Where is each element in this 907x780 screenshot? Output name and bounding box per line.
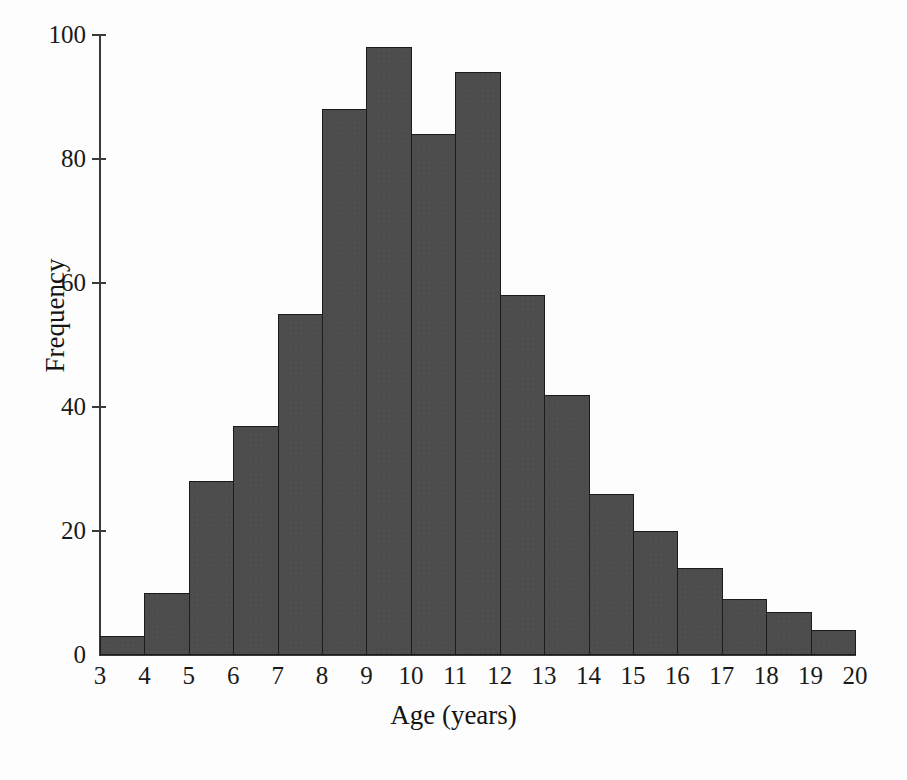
histogram-bar — [278, 314, 323, 655]
x-axis-tick-label: 17 — [700, 662, 744, 690]
x-axis-tick-label: 18 — [744, 662, 788, 690]
x-axis-tick-label: 15 — [611, 662, 655, 690]
histogram-bar — [366, 47, 411, 655]
x-axis-tick-label: 8 — [300, 662, 344, 690]
bar-texture — [456, 73, 499, 654]
histogram-bar — [677, 568, 722, 655]
y-axis-tick — [92, 406, 106, 408]
bar-texture — [678, 569, 721, 654]
x-axis-tick-label: 7 — [256, 662, 300, 690]
histogram-bar — [544, 395, 589, 655]
histogram-bar — [233, 426, 278, 655]
x-axis-title: Age (years) — [0, 700, 907, 731]
y-axis-tick — [92, 34, 106, 36]
histogram-bar — [189, 481, 234, 655]
histogram-bar — [322, 109, 367, 655]
bar-texture — [190, 482, 233, 654]
bar-texture — [590, 495, 633, 654]
x-axis-tick-label: 5 — [167, 662, 211, 690]
histogram-bar — [722, 599, 767, 655]
x-axis-tick-label: 9 — [344, 662, 388, 690]
bar-texture — [234, 427, 277, 654]
x-axis-tick-label: 20 — [833, 662, 877, 690]
y-axis-tick — [92, 158, 106, 160]
bar-texture — [634, 532, 677, 654]
bar-texture — [501, 296, 544, 654]
y-axis-tick — [92, 282, 106, 284]
histogram-bar — [811, 630, 856, 655]
histogram-bar — [766, 612, 811, 655]
histogram-figure: 020406080100 345678910111213141516171819… — [0, 0, 907, 780]
x-axis-tick-label: 14 — [567, 662, 611, 690]
histogram-bar — [633, 531, 678, 655]
x-axis-tick-label: 11 — [433, 662, 477, 690]
bar-texture — [723, 600, 766, 654]
x-axis-tick-label: 4 — [122, 662, 166, 690]
histogram-bar — [589, 494, 634, 655]
y-axis-tick-label: 100 — [16, 22, 86, 47]
x-axis-tick-label: 12 — [478, 662, 522, 690]
bar-texture — [323, 110, 366, 654]
bar-texture — [812, 631, 855, 654]
histogram-bar — [144, 593, 189, 655]
bar-texture — [145, 594, 188, 654]
y-axis-title: Frequency — [40, 156, 71, 476]
histogram-bar — [455, 72, 500, 655]
x-axis-tick-label: 16 — [655, 662, 699, 690]
bar-texture — [412, 135, 455, 654]
histogram-bar — [411, 134, 456, 655]
bar-texture — [101, 637, 144, 654]
y-axis-tick-label: 0 — [16, 642, 86, 667]
x-axis-tick-label: 19 — [789, 662, 833, 690]
bar-texture — [279, 315, 322, 654]
x-axis-tick-label: 10 — [389, 662, 433, 690]
y-axis-line — [99, 34, 101, 656]
y-axis-tick-label: 20 — [16, 518, 86, 543]
bar-texture — [767, 613, 810, 654]
bar-texture — [367, 48, 410, 654]
bar-texture — [545, 396, 588, 654]
y-axis-tick — [92, 530, 106, 532]
histogram-bar — [100, 636, 145, 655]
x-axis-tick-label: 13 — [522, 662, 566, 690]
x-axis-tick-label: 3 — [78, 662, 122, 690]
histogram-bar — [500, 295, 545, 655]
x-axis-tick-label: 6 — [211, 662, 255, 690]
